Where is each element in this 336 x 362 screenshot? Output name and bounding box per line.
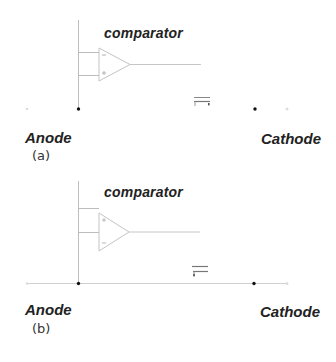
cathode-node-dot [253, 107, 256, 110]
switch-symbol [194, 98, 210, 107]
comparator-label: comparator [104, 25, 183, 41]
cathode-node-dot [252, 282, 255, 285]
diagram-panel-b: comparator Anode Cathode (b) [0, 170, 336, 351]
diagram-panel-a: comparator Anode Cathode (a) [0, 0, 336, 181]
anode-label: Anode [25, 301, 72, 318]
anode-node-dot [77, 107, 80, 110]
cathode-terminal-marker [286, 108, 289, 111]
panel-caption: (b) [32, 321, 50, 336]
panel-caption: (a) [32, 148, 50, 163]
cathode-label: Cathode [261, 130, 321, 147]
anode-terminal-marker [26, 282, 29, 285]
comparator-label: comparator [104, 184, 183, 200]
cathode-label: Cathode [260, 303, 320, 320]
anode-label: Anode [25, 129, 72, 146]
cathode-terminal-marker [286, 282, 289, 285]
anode-terminal-marker [26, 108, 29, 111]
switch-symbol [192, 267, 208, 277]
anode-node-dot [77, 282, 80, 285]
comparator-symbol [99, 48, 130, 81]
